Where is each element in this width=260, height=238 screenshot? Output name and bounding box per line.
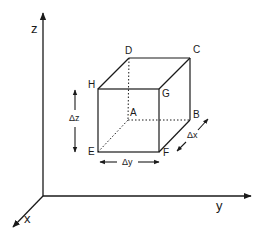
x-axis-label: x — [24, 212, 31, 225]
vertex-label-e: E — [88, 147, 95, 157]
hidden-edge-ea — [98, 120, 128, 152]
edge-hd — [98, 58, 129, 89]
vertex-label-g: G — [162, 89, 170, 99]
dz-label: Δz — [69, 114, 80, 123]
coordinate-cube-diagram: z y x D C H G A B E F Δz Δy Δx — [0, 0, 260, 238]
vertex-label-h: H — [88, 80, 95, 90]
dx-label: Δx — [187, 131, 198, 140]
edge-gc — [159, 58, 190, 89]
dx-arrow-down — [177, 142, 186, 151]
vertex-label-d: D — [125, 46, 132, 56]
y-axis-label: y — [216, 199, 223, 212]
vertex-label-b: B — [193, 110, 200, 120]
dx-arrow-up — [198, 119, 208, 130]
dy-label: Δy — [122, 158, 133, 167]
z-axis-label: z — [31, 22, 38, 35]
vertex-label-c: C — [193, 45, 200, 55]
cube — [98, 58, 190, 152]
vertex-label-f: F — [163, 148, 169, 158]
vertex-label-a: A — [130, 108, 137, 118]
